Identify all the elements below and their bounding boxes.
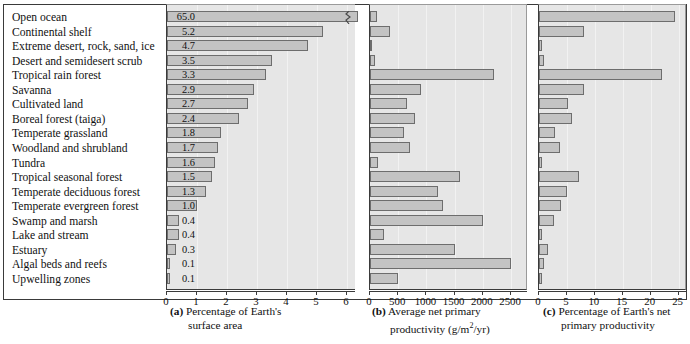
axis-tick-label: 0 <box>366 295 371 307</box>
bar <box>370 273 398 284</box>
bar <box>370 186 438 197</box>
ecosystem-label: Tundra <box>12 156 45 171</box>
bar <box>370 98 407 109</box>
ecosystem-label: Continental shelf <box>12 25 92 40</box>
caption-marker: (a) <box>170 305 183 317</box>
plot-area-b <box>369 4 527 290</box>
bar-value-label: 1.8 <box>169 127 195 138</box>
bar-value-label: 0.1 <box>169 273 195 284</box>
ecosystem-label: Lake and stream <box>12 228 89 243</box>
bar-value-label: 1.0 <box>169 200 195 211</box>
bar-value-label: 2.9 <box>169 84 195 95</box>
axis-line <box>538 291 686 292</box>
ecosystem-label: Cultivated land <box>12 97 83 112</box>
gridline <box>623 5 624 289</box>
ecosystem-label: Temperate grassland <box>12 126 107 141</box>
bar-value-label: 0.1 <box>169 258 195 269</box>
caption-line1: Percentage of Earth's net <box>558 305 670 317</box>
gridline <box>651 5 652 289</box>
ecosystem-productivity-figure: Open oceanContinental shelfExtreme deser… <box>0 0 690 344</box>
bar <box>370 69 494 80</box>
ecosystem-label: Algal beds and reefs <box>12 257 107 272</box>
bar <box>370 157 378 168</box>
bar-value-label: 2.4 <box>169 113 195 124</box>
gridline <box>347 5 348 289</box>
bar-value-label: 65.0 <box>169 11 195 22</box>
ecosystem-label: Temperate evergreen forest <box>12 199 138 214</box>
caption-marker: (b) <box>372 305 386 317</box>
caption-marker: (c) <box>543 305 556 317</box>
bar <box>539 84 584 95</box>
chart-panel-a: 65.05.24.73.53.32.92.72.41.81.71.61.51.3… <box>166 4 355 300</box>
ecosystem-label: Temperate deciduous forest <box>12 185 140 200</box>
bar <box>539 171 579 182</box>
caption-a: (a) Percentage of Earth'ssurface area <box>170 305 350 332</box>
bar <box>370 142 410 153</box>
bar <box>539 200 561 211</box>
bar <box>539 258 544 269</box>
gridline <box>679 5 680 289</box>
chart-panel-b: 05001000150020002500 <box>369 4 527 300</box>
bar <box>539 186 567 197</box>
bar-value-label: 0.3 <box>169 244 195 255</box>
bar <box>539 26 584 37</box>
gridline <box>455 5 456 289</box>
caption-c: (c) Percentage of Earth's netprimary pro… <box>543 305 690 332</box>
axis-break-icon <box>344 10 353 23</box>
bar <box>539 127 555 138</box>
bar <box>370 258 511 269</box>
bar-value-label: 5.2 <box>169 26 195 37</box>
bar <box>539 229 542 240</box>
caption-line1: Percentage of Earth's <box>186 305 282 317</box>
ecosystem-label: Boreal forest (taiga) <box>12 112 105 127</box>
gridline <box>511 5 512 289</box>
bar <box>370 229 384 240</box>
plot-area-a: 65.05.24.73.53.32.92.72.41.81.71.61.51.3… <box>166 4 355 290</box>
bar <box>370 26 390 37</box>
axis-line <box>369 291 527 292</box>
ecosystem-label: Tropical seasonal forest <box>12 170 122 185</box>
ecosystem-label: Swamp and marsh <box>12 214 98 229</box>
bar-value-label: 1.5 <box>169 171 195 182</box>
ecosystem-label: Woodland and shrubland <box>12 141 128 156</box>
bar <box>539 113 572 124</box>
ecosystem-label: Tropical rain forest <box>12 68 101 83</box>
gridline <box>317 5 318 289</box>
gridline <box>595 5 596 289</box>
bar <box>539 40 542 51</box>
bar-value-label: 1.3 <box>169 186 195 197</box>
caption-line2: primary productivity <box>543 319 690 333</box>
bar-value-label: 1.6 <box>169 157 195 168</box>
bar <box>539 157 542 168</box>
plot-area-c <box>538 4 686 290</box>
bar <box>370 127 404 138</box>
gridline <box>483 5 484 289</box>
chart-panel-c: 0510152025 <box>538 4 686 300</box>
ecosystem-label-column: Open oceanContinental shelfExtreme deser… <box>4 5 166 299</box>
bar <box>539 273 542 284</box>
bar-value-label: 4.7 <box>169 40 195 51</box>
bar <box>539 55 544 66</box>
axis-line <box>166 291 355 292</box>
caption-line2: surface area <box>170 319 350 333</box>
bar <box>370 244 455 255</box>
bar <box>539 11 675 22</box>
ecosystem-label: Extreme desert, rock, sand, ice <box>12 39 155 54</box>
ecosystem-label: Estuary <box>12 243 47 258</box>
caption-b: (b) Average net primaryproductivity (g/m… <box>372 305 547 336</box>
bar <box>370 200 443 211</box>
bar-value-label: 2.7 <box>169 98 195 109</box>
bar <box>539 98 568 109</box>
bar-value-label: 1.7 <box>169 142 195 153</box>
bar <box>539 142 560 153</box>
bar-value-label: 0.4 <box>169 229 195 240</box>
ecosystem-label: Desert and semidesert scrub <box>12 54 142 69</box>
bar <box>539 244 548 255</box>
bar <box>370 84 421 95</box>
bar <box>370 215 483 226</box>
bar-value-label: 3.5 <box>169 55 195 66</box>
bar <box>539 215 554 226</box>
bar <box>370 55 375 66</box>
bar-value-label: 0.4 <box>169 215 195 226</box>
ecosystem-label: Open ocean <box>12 10 67 25</box>
